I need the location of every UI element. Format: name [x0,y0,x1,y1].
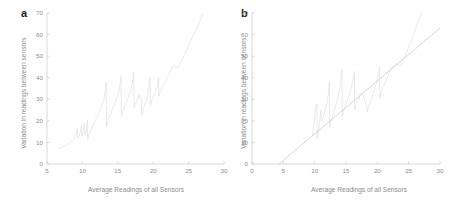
x-tick-label: 20 [374,167,381,174]
panel-a-tick-labels: 01020304050607051015202530 [36,9,228,174]
y-tick-label: 60 [36,31,43,38]
panel-a-x-axis-title: Average Readings of all Sensors [88,186,185,194]
panel-a-letter: a [21,7,28,19]
panel-b-axes [252,13,440,164]
x-tick-label: 30 [437,167,444,174]
y-tick-label: 70 [241,9,248,16]
panel-a-data [58,14,202,148]
y-tick-label: 10 [36,139,43,146]
x-tick-label: 10 [79,167,86,174]
x-tick-label: 15 [114,167,121,174]
y-tick-label: 60 [241,31,248,38]
x-tick-label: 30 [221,167,228,174]
x-tick-label: 25 [185,167,192,174]
panel-a-axes [47,13,224,164]
data-curve [58,14,202,148]
y-tick-label: 0 [245,160,249,167]
y-tick-label: 30 [36,95,43,102]
x-tick-label: 5 [282,167,286,174]
y-tick-label: 20 [36,117,43,124]
panel-b: b 010203040506070051015202530 Average Re… [229,0,458,205]
y-tick-label: 0 [40,160,44,167]
x-tick-label: 5 [45,167,49,174]
panel-b-plot: b 010203040506070051015202530 Average Re… [229,0,458,205]
y-tick-label: 50 [36,52,43,59]
y-tick-label: 70 [36,9,43,16]
figure-container: a 01020304050607051015202530 Average Rea… [0,0,458,205]
x-tick-label: 10 [311,167,318,174]
x-tick-label: 25 [405,167,412,174]
x-tick-label: 0 [250,167,254,174]
data-curve [312,13,421,139]
x-tick-label: 20 [150,167,157,174]
panel-a: a 01020304050607051015202530 Average Rea… [0,0,229,205]
panel-b-y-axis-title: Variation in readings between sensors [240,37,248,149]
panel-b-x-axis-title: Average Readings of all Sensors [311,186,408,194]
panel-a-plot: a 01020304050607051015202530 Average Rea… [0,0,229,205]
x-tick-label: 15 [343,167,350,174]
panel-b-data [279,13,440,164]
panel-a-y-axis-title: Variation in readings between sensors [20,37,28,149]
regression-line [279,28,440,164]
y-tick-label: 40 [36,74,43,81]
